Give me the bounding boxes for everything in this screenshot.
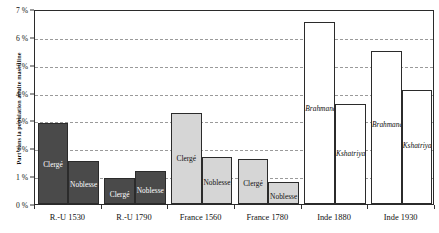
gridline [35,39,433,40]
y-tick-label: 6 % [4,33,28,42]
bar-inde-1930-brahmanes[interactable]: Brahmanes [371,51,402,204]
y-tick-label: 3 % [4,117,28,126]
bar-label: Brahmanes [372,121,401,128]
bar-label: Noblesse [69,181,98,188]
x-tick-mark [34,205,35,209]
bar-label: Clergé [172,155,201,162]
bar-label: Clergé [39,161,68,168]
y-tick-label: 5 % [4,61,28,70]
bar-label: Clergé [239,180,268,187]
x-group-label-r-u-1530: R.-U 1530 [50,213,85,222]
bar-label: Noblesse [269,193,298,200]
bar-chart: Part dans la population adulte masculine… [0,0,439,233]
x-group-label-r-u-1790: R.-U 1790 [116,213,151,222]
bar-r-u-1790-clerg-[interactable]: Clergé [104,178,135,204]
bar-inde-1930-kshatriya[interactable]: Kshatriya [402,90,433,204]
x-tick-mark [434,205,435,209]
x-group-label-france-1560: France 1560 [180,213,222,222]
bar-france-1780-noblesse[interactable]: Noblesse [268,182,299,204]
x-group-label-france-1780: France 1780 [247,213,289,222]
bar-label: Brahmanes [305,105,334,112]
bar-r-u-1530-clerg-[interactable]: Clergé [38,123,69,204]
bar-label: Kshatriya [403,142,432,149]
x-tick-mark [167,205,168,209]
bar-france-1560-noblesse[interactable]: Noblesse [202,157,233,204]
bar-inde-1880-kshatriya[interactable]: Kshatriya [335,104,366,204]
bar-label: Noblesse [203,179,232,186]
bar-label: Kshatriya [336,150,365,157]
plot-area: ClergéNoblesseClergéNoblesseClergéNobles… [34,10,434,205]
bar-label: Noblesse [136,187,165,194]
x-tick-mark [234,205,235,209]
bar-france-1780-clerg-[interactable]: Clergé [238,159,269,204]
bar-inde-1880-brahmanes[interactable]: Brahmanes [304,22,335,204]
x-group-label-inde-1880: Inde 1880 [317,213,351,222]
y-tick-label: 4 % [4,89,28,98]
y-tick-label: 7 % [4,6,28,15]
bar-label: Clergé [105,191,134,198]
x-tick-mark [101,205,102,209]
bar-r-u-1790-noblesse[interactable]: Noblesse [135,171,166,204]
bar-r-u-1530-noblesse[interactable]: Noblesse [68,161,99,204]
x-tick-mark [367,205,368,209]
y-tick-label: 1 % [4,173,28,182]
bar-france-1560-clerg-[interactable]: Clergé [171,113,202,204]
y-tick-label: 2 % [4,145,28,154]
y-tick-label: 0 % [4,201,28,210]
y-axis-title: Part dans la population adulte masculine [15,29,22,189]
x-group-label-inde-1930: Inde 1930 [384,213,418,222]
x-tick-mark [301,205,302,209]
